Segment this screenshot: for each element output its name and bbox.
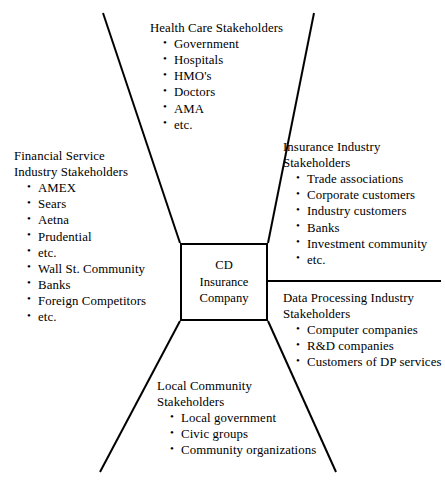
list-item: •Customers of DP services [296, 354, 442, 370]
list-item-label: Banks [38, 278, 71, 292]
list-item: •Hospitals [163, 52, 283, 68]
list-item: •Corporate customers [296, 187, 427, 203]
bullet-icon: • [27, 228, 31, 242]
list-item-label: Sears [38, 197, 66, 211]
bullet-icon: • [163, 116, 167, 130]
group-heading-line: Financial Service [14, 148, 146, 164]
bullet-icon: • [170, 442, 174, 456]
central-entity-box: CD Insurance Company [180, 243, 268, 321]
bullet-icon: • [27, 260, 31, 274]
list-item-label: Civic groups [181, 427, 248, 441]
list-item: •etc. [163, 117, 283, 133]
list-item: •Local government [170, 410, 316, 426]
bullet-icon: • [27, 309, 31, 323]
list-item: •Doctors [163, 84, 283, 100]
bullet-icon: • [163, 36, 167, 50]
list-item-label: Banks [307, 221, 340, 235]
list-item-label: Investment community [307, 237, 427, 251]
list-item-label: Prudential [38, 230, 92, 244]
group-item-list: •Government •Hospitals •HMO's •Doctors •… [150, 36, 283, 133]
bullet-icon: • [296, 187, 300, 201]
list-item-label: Hospitals [174, 53, 223, 67]
group-heading-line: Health Care Stakeholders [150, 20, 283, 36]
list-item: •HMO's [163, 68, 283, 84]
bullet-icon: • [27, 276, 31, 290]
bullet-icon: • [27, 180, 31, 194]
list-item-label: Industry customers [307, 204, 407, 218]
list-item-label: Customers of DP services [307, 355, 442, 369]
list-item: •AMEX [27, 180, 146, 196]
list-item-label: Wall St. Community [38, 262, 145, 276]
list-item-label: etc. [38, 246, 57, 260]
bullet-icon: • [27, 292, 31, 306]
list-item-label: Corporate customers [307, 188, 415, 202]
list-item: •Computer companies [296, 322, 442, 338]
group-heading-line: Stakeholders [283, 306, 442, 322]
list-item-label: Computer companies [307, 323, 418, 337]
stakeholder-group-health-care: Health Care Stakeholders •Government •Ho… [150, 20, 283, 133]
list-item-label: AMA [174, 102, 204, 116]
bullet-icon: • [163, 68, 167, 82]
group-heading-line: Stakeholders [157, 394, 316, 410]
bullet-icon: • [170, 426, 174, 440]
list-item: •Sears [27, 196, 146, 212]
list-item-label: Government [174, 37, 239, 51]
list-item-label: Trade associations [307, 172, 403, 186]
list-item: •Government [163, 36, 283, 52]
bullet-icon: • [296, 322, 300, 336]
list-item-label: Local government [181, 411, 276, 425]
stakeholder-group-financial-service: Financial Service Industry Stakeholders … [14, 148, 146, 325]
list-item-label: Aetna [38, 213, 69, 227]
list-item-label: HMO's [174, 69, 212, 83]
bullet-icon: • [296, 251, 300, 265]
bullet-icon: • [296, 235, 300, 249]
stakeholder-group-local-community: Local Community Stakeholders •Local gove… [157, 378, 316, 459]
list-item: •Wall St. Community [27, 261, 146, 277]
bullet-icon: • [163, 100, 167, 114]
bullet-icon: • [296, 171, 300, 185]
list-item-label: Foreign Competitors [38, 294, 146, 308]
bullet-icon: • [27, 212, 31, 226]
list-item-label: etc. [174, 118, 193, 132]
list-item-label: Doctors [174, 85, 215, 99]
group-item-list: •AMEX •Sears •Aetna •Prudential •etc. •W… [14, 180, 146, 325]
bullet-icon: • [170, 410, 174, 424]
bullet-icon: • [296, 219, 300, 233]
bullet-icon: • [296, 338, 300, 352]
list-item: •Prudential [27, 229, 146, 245]
list-item: •Civic groups [170, 426, 316, 442]
list-item: •AMA [163, 101, 283, 117]
list-item: •Industry customers [296, 203, 427, 219]
group-item-list: •Local government •Civic groups •Communi… [157, 410, 316, 458]
stakeholder-group-insurance-industry: Insurance Industry Stakeholders •Trade a… [283, 139, 427, 268]
group-heading-line: Insurance Industry [283, 139, 427, 155]
bullet-icon: • [296, 354, 300, 368]
group-item-list: •Computer companies •R&D companies •Cust… [283, 322, 442, 370]
list-item-label: Community organizations [181, 443, 316, 457]
group-heading-line: Industry Stakeholders [14, 164, 146, 180]
list-item-label: etc. [307, 253, 326, 267]
list-item: •Investment community [296, 236, 427, 252]
list-item: •etc. [27, 309, 146, 325]
list-item: •etc. [27, 245, 146, 261]
group-heading-line: Stakeholders [283, 155, 427, 171]
list-item-label: AMEX [38, 181, 76, 195]
list-item: •Foreign Competitors [27, 293, 146, 309]
bullet-icon: • [163, 84, 167, 98]
list-item: •Banks [27, 277, 146, 293]
list-item: •Trade associations [296, 171, 427, 187]
central-entity-line-2: Insurance [200, 274, 249, 291]
group-heading-line: Data Processing Industry [283, 290, 442, 306]
group-item-list: •Trade associations •Corporate customers… [283, 171, 427, 268]
list-item: •Community organizations [170, 442, 316, 458]
list-item-label: etc. [38, 310, 57, 324]
list-item: •R&D companies [296, 338, 442, 354]
central-entity-line-3: Company [200, 290, 249, 307]
list-item: •Aetna [27, 212, 146, 228]
bullet-icon: • [296, 203, 300, 217]
list-item: •etc. [296, 252, 427, 268]
group-heading-line: Local Community [157, 378, 316, 394]
stakeholder-group-data-processing: Data Processing Industry Stakeholders •C… [283, 290, 442, 371]
list-item: •Banks [296, 220, 427, 236]
bullet-icon: • [163, 52, 167, 66]
